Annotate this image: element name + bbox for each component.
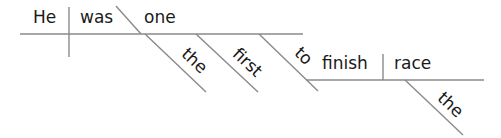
word-object: race bbox=[394, 55, 431, 72]
predicate-nominative-slash bbox=[116, 6, 141, 34]
word-subject: He bbox=[33, 9, 56, 26]
infinitive-stem-line bbox=[259, 34, 318, 91]
word-infinitive-verb: finish bbox=[322, 55, 368, 72]
word-verb: was bbox=[80, 9, 113, 26]
word-predicate-nominative: one bbox=[144, 9, 176, 26]
